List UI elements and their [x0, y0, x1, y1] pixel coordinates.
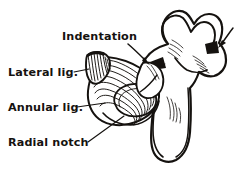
- label-radial-notch: Radial notch: [8, 136, 89, 149]
- anatomical-figure: Indentation Lateral lig. Annular lig. Ra…: [0, 0, 235, 170]
- anatomy-illustration: Indentation Lateral lig. Annular lig. Ra…: [0, 0, 235, 170]
- radial-notch-group: [136, 62, 163, 98]
- radial-notch-surface: [136, 62, 163, 98]
- label-indentation: Indentation: [62, 30, 137, 43]
- label-annular-lig: Annular lig.: [8, 101, 83, 114]
- label-lateral-lig: Lateral lig.: [8, 66, 78, 79]
